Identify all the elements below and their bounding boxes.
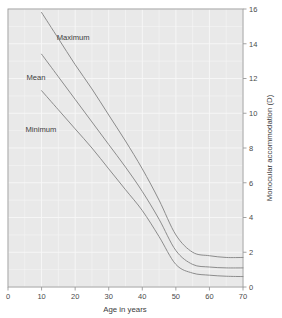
y-axis-ticks: 0246810121416 [243,5,257,292]
x-tick-label: 10 [37,292,45,301]
x-tick-label: 70 [239,292,247,301]
x-tick-label: 20 [71,292,79,301]
y-axis-title: Monocular accommodation (D) [265,94,274,201]
x-axis-ticks: 010203040506070 [6,287,247,301]
x-tick-label: 30 [105,292,113,301]
series-label-minimum: Minimum [25,125,56,134]
x-tick-label: 40 [138,292,146,301]
y-tick-label: 16 [249,5,257,14]
y-tick-label: 6 [249,179,253,188]
y-tick-label: 0 [249,283,253,292]
x-axis-title: Age in years [103,305,146,314]
x-tick-label: 0 [6,292,10,301]
x-tick-label: 50 [172,292,180,301]
series-label-mean: Mean [26,73,45,82]
y-tick-label: 8 [249,144,253,153]
y-tick-label: 14 [249,40,257,49]
x-tick-label: 60 [205,292,213,301]
y-tick-label: 4 [249,213,253,222]
chart-canvas: 010203040506070 0246810121416 MaximumMea… [0,0,282,318]
y-tick-label: 2 [249,248,253,257]
y-tick-label: 12 [249,74,257,83]
y-tick-label: 10 [249,109,257,118]
accommodation-chart: 010203040506070 0246810121416 MaximumMea… [0,0,282,318]
series-label-maximum: Maximum [57,33,90,42]
